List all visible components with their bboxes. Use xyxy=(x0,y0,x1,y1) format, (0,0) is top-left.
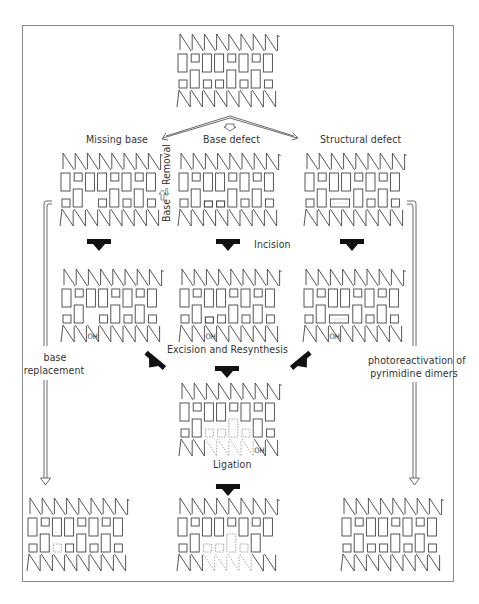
dna-block-base-defect xyxy=(178,153,281,226)
base-pyrimidine xyxy=(228,54,236,62)
top-backbone-segment xyxy=(405,498,416,515)
base-pyrimidine xyxy=(78,518,86,526)
top-backbone-segment xyxy=(103,498,114,515)
base-pyrimidine xyxy=(135,173,143,181)
base-pyrimidine xyxy=(90,544,98,552)
bottom-backbone-segment xyxy=(253,209,264,226)
base-pyrimidine xyxy=(367,199,375,207)
bottom-backbone-segment xyxy=(179,90,190,107)
top-backbone-segment xyxy=(243,383,254,400)
top-backbone-segment xyxy=(229,498,240,515)
base-purine xyxy=(354,189,363,207)
bottom-backbone-segment xyxy=(416,554,427,571)
base-purine xyxy=(329,173,338,191)
bottom-backbone-segment xyxy=(266,325,277,342)
base-pyrimidine xyxy=(241,199,249,207)
bottom-backbone-segment xyxy=(216,90,227,107)
top-backbone-segment xyxy=(367,269,378,286)
top-backbone-segment xyxy=(64,269,75,286)
top-backbone-segment xyxy=(219,383,230,400)
top-backbone-segment xyxy=(181,153,192,170)
base-pyrimidine xyxy=(29,544,37,552)
bottom-backbone-segment xyxy=(99,209,110,226)
bottom-backbone-segment xyxy=(367,209,378,226)
base-pyrimidine xyxy=(99,199,107,207)
top-backbone-segment xyxy=(88,269,99,286)
base-purine xyxy=(227,70,236,88)
label-base-replacement-2: replacement xyxy=(20,364,88,376)
arrow-down-ligation-shape xyxy=(216,484,240,496)
bottom-backbone-segment xyxy=(266,439,277,456)
base-pyrimidine xyxy=(366,315,374,323)
top-backbone-segment xyxy=(393,498,404,515)
base-pyrimidine xyxy=(354,289,362,297)
top-backbone-segment xyxy=(241,498,252,515)
base-purine xyxy=(341,289,350,307)
top-backbone-segment xyxy=(330,269,341,286)
bottom-backbone-start xyxy=(27,554,29,571)
label-photoreactivation-1: photoreactivation of xyxy=(368,354,460,366)
top-backbone-segment xyxy=(241,34,252,51)
base-pyrimidine xyxy=(123,199,131,207)
dna-block-photoreactivated xyxy=(341,498,444,571)
arrow-down-incision-shape xyxy=(216,239,240,251)
top-backbone-segment xyxy=(306,269,317,286)
top-backbone-segment xyxy=(54,498,65,515)
label-excision-resynthesis: Excision and Resynthesis xyxy=(167,343,288,355)
base-purine xyxy=(389,289,398,307)
bottom-backbone-segment xyxy=(241,209,252,226)
top-backbone-end xyxy=(162,270,164,286)
base-pyrimidine xyxy=(390,315,398,323)
base-pyrimidine xyxy=(114,544,122,552)
bottom-backbone-segment xyxy=(114,554,125,571)
bottom-backbone-segment xyxy=(78,554,89,571)
top-backbone-segment xyxy=(113,269,124,286)
base-purine xyxy=(203,173,212,191)
bottom-backbone-start xyxy=(179,325,181,342)
top-backbone-segment xyxy=(217,34,228,51)
bottom-backbone-segment xyxy=(343,209,354,226)
damaged-base xyxy=(205,317,213,323)
bottom-backbone-start xyxy=(61,325,63,342)
base-purine xyxy=(342,173,351,191)
bottom-backbone-segment xyxy=(240,90,251,107)
base-purine xyxy=(204,403,213,421)
base-purine xyxy=(147,289,156,307)
top-backbone-segment xyxy=(355,269,366,286)
top-backbone-segment xyxy=(180,498,191,515)
base-purine xyxy=(40,534,49,552)
base-replacement-shaft-outer xyxy=(44,201,52,346)
base-pyrimidine xyxy=(317,289,325,297)
base-pyrimidine xyxy=(136,289,144,297)
base-purine xyxy=(202,518,211,536)
label-photoreactivation-2: pyrimidine dimers xyxy=(368,367,460,379)
top-backbone-segment xyxy=(217,498,228,515)
top-backbone-segment xyxy=(343,269,354,286)
top-backbone-end xyxy=(128,499,130,515)
bottom-backbone-segment xyxy=(41,554,52,571)
base-pyrimidine xyxy=(191,54,199,62)
new-base-pyrimidine xyxy=(218,429,226,437)
bottom-backbone-start xyxy=(177,554,179,571)
base-pyrimidine xyxy=(63,315,71,323)
base-pyrimidine xyxy=(228,518,236,526)
base-purine xyxy=(28,518,37,536)
base-pyrimidine xyxy=(265,199,273,207)
top-backbone-segment xyxy=(30,498,41,515)
base-purine xyxy=(202,54,211,72)
base-purine xyxy=(77,534,86,552)
base-pyrimidine xyxy=(230,403,238,411)
bottom-backbone-segment xyxy=(366,325,377,342)
bottom-backbone-segment xyxy=(242,439,253,456)
top-backbone-segment xyxy=(148,153,159,170)
base-purine xyxy=(215,518,224,536)
base-purine xyxy=(180,403,189,421)
top-backbone-end xyxy=(404,270,406,286)
bottom-backbone-segment xyxy=(404,554,415,571)
bottom-backbone-segment xyxy=(354,325,365,342)
top-backbone-segment xyxy=(253,498,264,515)
top-backbone-segment xyxy=(231,269,242,286)
base-purine xyxy=(265,403,274,421)
bottom-backbone-segment xyxy=(181,439,192,456)
bottom-backbone-segment xyxy=(378,325,389,342)
